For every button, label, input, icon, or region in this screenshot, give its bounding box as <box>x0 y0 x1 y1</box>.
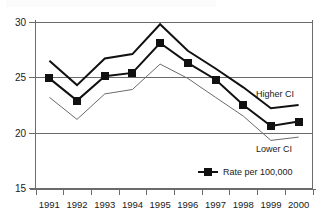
legend-marker-swatch <box>204 168 212 176</box>
x-tick-label-1995: 1995 <box>150 199 171 210</box>
data-marker-1994 <box>128 69 136 77</box>
plot-frame <box>30 20 316 190</box>
x-tick-label-1996: 1996 <box>177 199 198 210</box>
x-tick-label-1999: 1999 <box>260 199 281 210</box>
data-marker-1992 <box>73 97 81 105</box>
polyline-rate <box>49 43 298 126</box>
annotation-lower-ci: Lower CI <box>256 144 292 154</box>
data-marker-1999 <box>267 122 275 130</box>
x-tick-label-1993: 1993 <box>94 199 115 210</box>
data-marker-1996 <box>184 59 192 67</box>
data-marker-1998 <box>239 101 247 109</box>
x-tick-label-1991: 1991 <box>39 199 60 210</box>
data-marker-1995 <box>156 39 164 47</box>
y-axis: 15202530 <box>15 17 36 194</box>
x-tick-label-2000: 2000 <box>288 199 309 210</box>
y-tick-label-20: 20 <box>15 128 27 139</box>
y-tick-label-25: 25 <box>15 72 27 83</box>
gridlines <box>36 23 313 189</box>
data-marker-2000 <box>295 118 303 126</box>
line-chart-canvas: 15202530 1991199219931994199519961997199… <box>0 0 322 214</box>
x-axis: 1991199219931994199519961997199819992000 <box>37 190 314 211</box>
x-tick-label-1997: 1997 <box>205 199 226 210</box>
data-marker-1991 <box>45 74 53 82</box>
chart-figure: 15202530 1991199219931994199519961997199… <box>0 0 322 214</box>
legend: Rate per 100,000 <box>198 167 293 177</box>
annotation-higher-ci: Higher CI <box>256 89 294 99</box>
x-tick-label-1998: 1998 <box>233 199 254 210</box>
y-tick-label-15: 15 <box>15 183 27 194</box>
series-line-rate <box>49 43 298 126</box>
legend-label-rate: Rate per 100,000 <box>223 167 293 177</box>
y-tick-label-30: 30 <box>15 17 27 28</box>
x-tick-label-1994: 1994 <box>122 199 143 210</box>
data-marker-1997 <box>212 76 220 84</box>
data-marker-1993 <box>101 72 109 80</box>
x-tick-label-1992: 1992 <box>66 199 87 210</box>
